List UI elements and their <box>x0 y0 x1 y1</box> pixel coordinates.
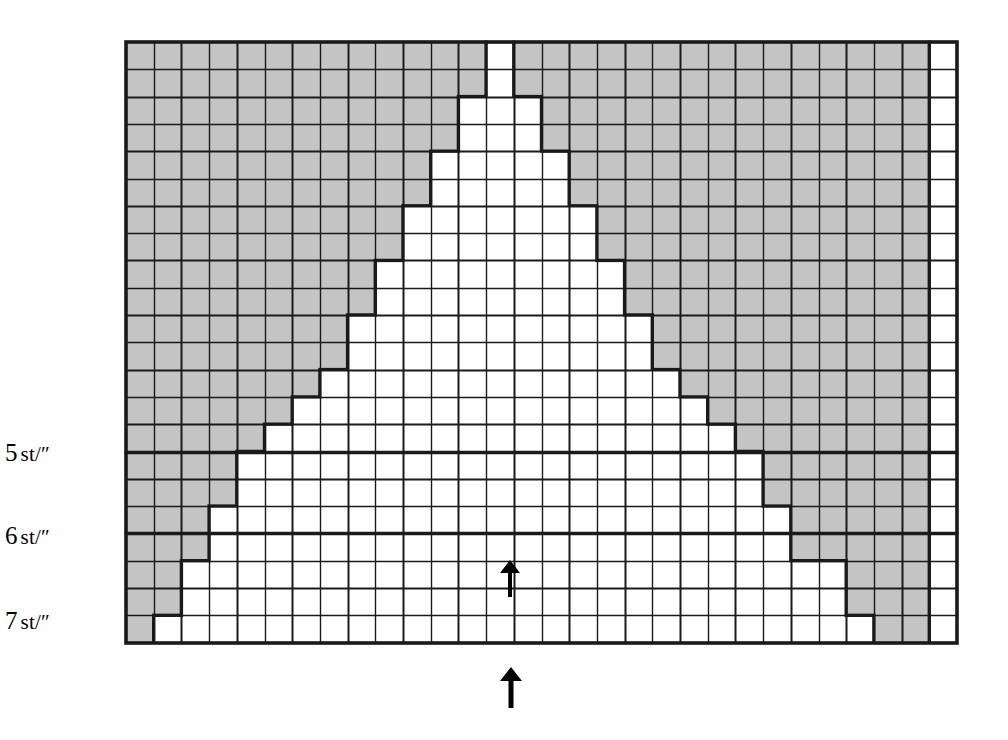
gauge-label-5-number: 5 <box>5 439 18 466</box>
gauge-label-7: 7st/″ <box>5 608 50 633</box>
gauge-label-6: 6st/″ <box>5 523 50 548</box>
figure-canvas: 5st/″ 6st/″ 7st/″ <box>0 0 1008 740</box>
gauge-grid <box>120 36 963 649</box>
inner-up-arrow-icon <box>498 558 522 598</box>
gauge-label-7-unit: st/″ <box>21 610 50 634</box>
gauge-label-7-number: 7 <box>5 607 18 634</box>
outer-up-arrow-icon <box>498 665 524 709</box>
gauge-label-5-unit: st/″ <box>21 442 50 466</box>
gauge-label-6-number: 6 <box>5 522 18 549</box>
gauge-label-6-unit: st/″ <box>21 525 50 549</box>
gauge-grid-canvas <box>120 36 963 649</box>
gauge-label-5: 5st/″ <box>5 440 50 465</box>
